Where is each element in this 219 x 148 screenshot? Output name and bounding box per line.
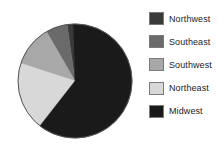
legend-swatch-northeast [149, 82, 164, 95]
legend-label-southeast: Southeast [169, 37, 210, 47]
legend-label-northeast: Northeast [169, 83, 209, 93]
legend-item-midwest[interactable]: Midwest [149, 100, 219, 123]
legend-swatch-midwest [149, 105, 164, 118]
legend-label-southwest: Southwest [169, 60, 212, 70]
pie-chart-figure: Northwest Southeast Southwest Northeast … [0, 0, 219, 148]
legend-item-northwest[interactable]: Northwest [149, 7, 219, 30]
legend-item-northeast[interactable]: Northeast [149, 77, 219, 100]
legend-swatch-southeast [149, 35, 164, 48]
chart-legend: Northwest Southeast Southwest Northeast … [149, 7, 219, 125]
legend-swatch-northwest [149, 12, 164, 25]
legend-swatch-southwest [149, 58, 164, 71]
legend-label-midwest: Midwest [169, 106, 203, 116]
legend-label-northwest: Northwest [169, 14, 210, 24]
legend-item-southeast[interactable]: Southeast [149, 30, 219, 53]
pie-svg [0, 0, 148, 148]
legend-item-southwest[interactable]: Southwest [149, 53, 219, 76]
pie-plot-area [0, 0, 148, 148]
